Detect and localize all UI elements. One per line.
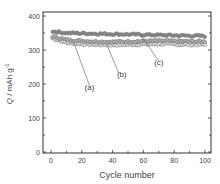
- annotation-label-a: (a): [85, 83, 95, 92]
- x-tick-label: 60: [140, 157, 148, 164]
- data-series: [51, 29, 207, 47]
- y-tick-label: 100: [28, 115, 40, 122]
- cycle-performance-chart: 0100200300400 020406080100 (a)(b)(c) Cyc…: [0, 0, 220, 184]
- y-axis-label: Q / mAh g-1: [4, 64, 14, 105]
- x-axis-ticks: 020406080100: [49, 150, 211, 164]
- y-tick-label: 400: [28, 13, 40, 20]
- x-tick-label: 80: [170, 157, 178, 164]
- annotation-label-c: (c): [154, 58, 164, 67]
- y-tick-label: 300: [28, 47, 40, 54]
- x-axis-label: Cycle number: [99, 170, 155, 180]
- annotation-leader-b: [106, 44, 118, 73]
- annotation-label-b: (b): [117, 70, 127, 79]
- y-tick-label: 200: [28, 81, 40, 88]
- x-tick-label: 100: [199, 157, 211, 164]
- x-tick-label: 20: [78, 157, 86, 164]
- x-tick-label: 0: [49, 157, 53, 164]
- annotation-leader-a: [74, 43, 89, 85]
- y-tick-label: 0: [36, 149, 40, 156]
- data-point: [203, 35, 206, 38]
- data-point: [203, 40, 206, 43]
- x-tick-label: 40: [109, 157, 117, 164]
